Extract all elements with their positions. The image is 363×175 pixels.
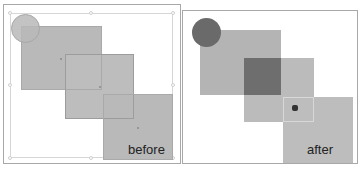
selection-handle-ml[interactable]	[8, 83, 12, 87]
before-circle[interactable]	[11, 14, 40, 43]
after-label: after	[307, 142, 333, 157]
selection-handle-bl[interactable]	[8, 156, 12, 160]
selection-handle-tl[interactable]	[8, 11, 12, 15]
selection-handle-bm[interactable]	[89, 156, 93, 160]
after-overlap	[244, 58, 281, 95]
after-circle[interactable]	[192, 18, 221, 47]
center-dot	[137, 127, 139, 129]
selection-handle-mr[interactable]	[171, 83, 175, 87]
center-dot	[60, 58, 62, 60]
selection-handle-tm[interactable]	[89, 11, 93, 15]
after-bc-overlap-outline	[283, 97, 314, 122]
center-dot	[99, 86, 101, 88]
selection-handle-tr[interactable]	[171, 11, 175, 15]
move-cursor-icon	[292, 105, 298, 111]
before-label: before	[128, 142, 165, 157]
